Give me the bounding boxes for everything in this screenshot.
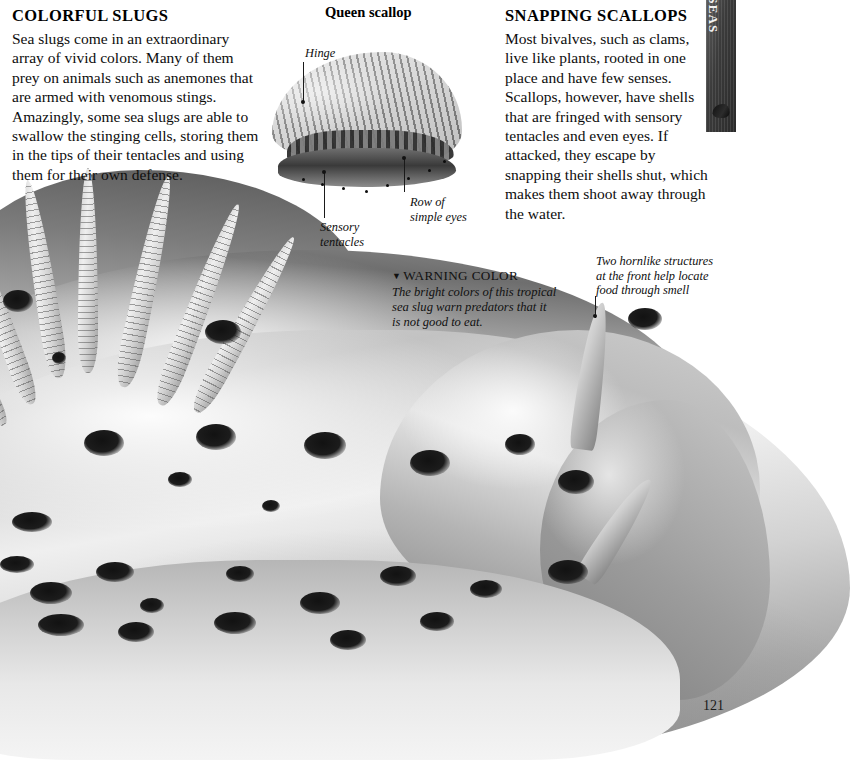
warning-color-title-text: WARNING COLOR	[403, 268, 518, 283]
warning-color-body: The bright colors of this tropical sea s…	[392, 285, 582, 329]
colorful-slugs-body: Sea slugs come in an extraordinary array…	[12, 29, 264, 184]
shell-icon	[713, 104, 730, 118]
leader-line-hinge	[303, 62, 304, 102]
snapping-scallops-article: SNAPPING SCALLOPS Most bivalves, such as…	[505, 6, 710, 223]
queen-scallop-title: Queen scallop	[325, 4, 495, 21]
snapping-scallops-body: Most bivalves, such as clams, live like …	[505, 29, 710, 223]
label-hinge: Hinge	[305, 46, 335, 61]
leader-dot-rhinophore	[593, 314, 597, 318]
section-tab-label: OW SEAS	[705, 0, 721, 34]
colorful-slugs-article: COLORFUL SLUGS Sea slugs come in an extr…	[12, 6, 264, 184]
label-sensory-tentacles: Sensory tentacles	[320, 220, 364, 249]
leader-dot-sensory-tentacles	[322, 170, 326, 174]
snapping-scallops-heading: SNAPPING SCALLOPS	[505, 6, 710, 26]
leader-dot-row-of-simple-eyes	[402, 156, 406, 160]
page-number: 121	[703, 698, 724, 714]
triangle-down-icon: ▼	[392, 271, 401, 281]
leader-dot-hinge	[301, 100, 305, 104]
hornlike-structures-caption: Two hornlike structures at the front hel…	[596, 254, 746, 298]
warning-color-title: ▼WARNING COLOR	[392, 268, 582, 284]
leader-line-row-of-simple-eyes	[404, 158, 405, 192]
warning-color-caption: ▼WARNING COLOR The bright colors of this…	[392, 268, 582, 329]
leader-line-sensory-tentacles	[324, 172, 325, 218]
section-tab-shallow-seas[interactable]: OW SEAS	[706, 0, 736, 132]
label-row-of-simple-eyes: Row of simple eyes	[410, 195, 467, 224]
colorful-slugs-heading: COLORFUL SLUGS	[12, 6, 264, 26]
